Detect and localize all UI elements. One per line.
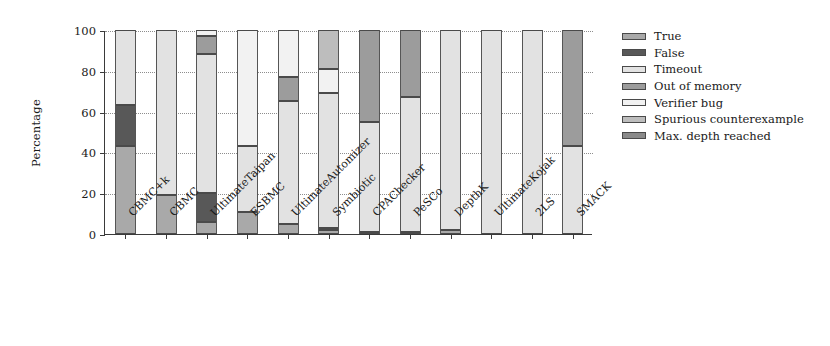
legend-label: Verifier bug bbox=[654, 96, 723, 110]
legend-item: False bbox=[622, 45, 827, 62]
legend-item: Max. depth reached bbox=[622, 128, 827, 145]
legend-swatch-icon bbox=[622, 66, 646, 73]
legend-item: Verifier bug bbox=[622, 94, 827, 111]
x-tick-mark bbox=[573, 234, 574, 239]
x-tick-mark bbox=[329, 234, 330, 239]
legend-label: True bbox=[654, 29, 681, 43]
legend-item: Out of memory bbox=[622, 78, 827, 95]
bar-segment bbox=[319, 69, 338, 93]
y-tick-mark bbox=[100, 194, 105, 195]
y-tick-label: 0 bbox=[89, 228, 96, 242]
x-tick-mark bbox=[369, 234, 370, 239]
y-tick-mark bbox=[100, 72, 105, 73]
bar-segment bbox=[197, 36, 216, 54]
bar-segment bbox=[197, 54, 216, 193]
legend-item: Spurious counterexample bbox=[622, 111, 827, 128]
x-tick-mark bbox=[288, 234, 289, 239]
bar-segment bbox=[197, 30, 216, 36]
x-tick-mark bbox=[166, 234, 167, 239]
bar-segment bbox=[279, 224, 298, 234]
legend-swatch-icon bbox=[622, 132, 646, 139]
x-tick-mark bbox=[207, 234, 208, 239]
y-tick-mark bbox=[100, 153, 105, 154]
legend-label: Timeout bbox=[654, 62, 702, 76]
gridline bbox=[105, 113, 593, 114]
x-tick-mark bbox=[247, 234, 248, 239]
legend-label: Spurious counterexample bbox=[654, 112, 804, 126]
bar-segment bbox=[401, 30, 420, 97]
legend-swatch-icon bbox=[622, 33, 646, 40]
y-tick-label: 60 bbox=[81, 106, 96, 120]
legend-label: Out of memory bbox=[654, 79, 741, 93]
x-tick-mark bbox=[125, 234, 126, 239]
chart-legend: TrueFalseTimeoutOut of memoryVerifier bu… bbox=[622, 28, 827, 144]
legend-swatch-icon bbox=[622, 99, 646, 106]
gridline bbox=[105, 72, 593, 73]
y-tick-mark bbox=[100, 235, 105, 236]
legend-label: False bbox=[654, 46, 684, 60]
legend-swatch-icon bbox=[622, 49, 646, 56]
bar-segment bbox=[116, 30, 135, 105]
y-tick-label: 80 bbox=[81, 65, 96, 79]
y-axis-label: Percentage bbox=[29, 99, 43, 167]
legend-item: Timeout bbox=[622, 61, 827, 78]
bar-segment bbox=[279, 77, 298, 101]
y-tick-label: 20 bbox=[81, 187, 96, 201]
bar-segment bbox=[441, 30, 460, 230]
bar-segment bbox=[360, 30, 379, 122]
bar-segment bbox=[563, 146, 582, 234]
bar-segment bbox=[319, 228, 338, 230]
y-tick-mark bbox=[100, 113, 105, 114]
legend-swatch-icon bbox=[622, 83, 646, 90]
bar-segment bbox=[563, 30, 582, 146]
chart-figure: Percentage 020406080100 CBMC+kCBMCUltima… bbox=[0, 0, 830, 346]
legend-label: Max. depth reached bbox=[654, 129, 771, 143]
legend-swatch-icon bbox=[622, 116, 646, 123]
x-tick-mark bbox=[532, 234, 533, 239]
bar-segment bbox=[116, 146, 135, 234]
y-tick-mark bbox=[100, 31, 105, 32]
y-tick-label: 40 bbox=[81, 146, 96, 160]
bar-segment bbox=[197, 222, 216, 234]
y-tick-label: 100 bbox=[74, 24, 96, 38]
bar-segment bbox=[319, 30, 338, 69]
x-tick-mark bbox=[410, 234, 411, 239]
bar-segment bbox=[116, 105, 135, 146]
bar-segment bbox=[238, 30, 257, 146]
bar-segment bbox=[279, 30, 298, 77]
bar-segment bbox=[157, 30, 176, 195]
legend-item: True bbox=[622, 28, 827, 45]
x-tick-mark bbox=[491, 234, 492, 239]
x-tick-mark bbox=[451, 234, 452, 239]
gridline bbox=[105, 31, 593, 32]
